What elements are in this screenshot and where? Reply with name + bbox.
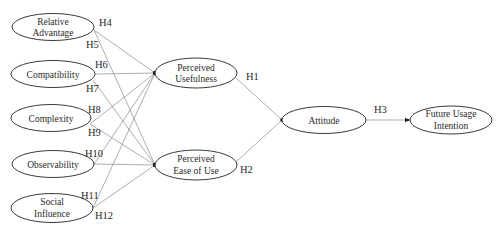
label-h4: H4: [99, 17, 113, 28]
perceived-usefulness-label-line2: Usefulness: [175, 74, 217, 84]
label-h9: H9: [88, 127, 101, 138]
social-influence-label-line2: Influence: [34, 209, 70, 219]
label-h6: H6: [95, 59, 108, 70]
perceived-ease-of-use-label-line1: Perceived: [177, 154, 215, 164]
edge-h8: [90, 73, 155, 124]
relative-advantage-label-line2: Advantage: [32, 28, 73, 38]
compatibility-label: Compatibility: [27, 70, 80, 80]
edge-h5: [94, 30, 155, 165]
label-h8: H8: [88, 104, 101, 115]
node-future-usage-intention: Future Usage Intention: [410, 106, 492, 134]
node-relative-advantage: Relative Advantage: [12, 14, 94, 41]
edges-to-perceived-ease-of-use: [90, 30, 155, 208]
social-influence-label-line1: Social: [40, 197, 64, 207]
future-usage-intention-label-line2: Intention: [434, 121, 469, 131]
label-h12: H12: [95, 210, 113, 221]
node-observability: Observability: [12, 151, 94, 178]
complexity-label: Complexity: [29, 114, 74, 124]
label-h10: H10: [85, 148, 103, 159]
edge-h6: [95, 73, 155, 74]
research-model-diagram: Relative Advantage Compatibility Complex…: [0, 0, 501, 237]
future-usage-intention-label-line1: Future Usage: [426, 109, 477, 119]
relative-advantage-label-line1: Relative: [37, 17, 69, 27]
perceived-ease-of-use-label-line2: Ease of Use: [173, 166, 218, 176]
edge-h12: [93, 165, 155, 208]
node-complexity: Complexity: [11, 105, 91, 132]
edge-h2: [236, 120, 282, 162]
node-perceived-usefulness: Perceived Usefulness: [155, 58, 237, 88]
label-h2: H2: [240, 164, 253, 175]
edge-h1: [236, 78, 282, 120]
edge-h10: [94, 73, 155, 164]
perceived-usefulness-label-line1: Perceived: [177, 63, 215, 73]
label-h11: H11: [81, 190, 99, 201]
node-attitude: Attitude: [282, 107, 366, 134]
label-h3: H3: [374, 104, 387, 115]
observability-label: Observability: [27, 160, 79, 170]
edges-to-perceived-usefulness: [90, 30, 155, 208]
label-h1: H1: [246, 71, 259, 82]
node-compatibility: Compatibility: [11, 61, 95, 88]
edge-observability-peou: [94, 164, 155, 165]
label-h5: H5: [86, 39, 99, 50]
node-perceived-ease-of-use: Perceived Ease of Use: [155, 150, 237, 180]
label-h7: H7: [86, 83, 99, 94]
attitude-label: Attitude: [308, 116, 339, 126]
